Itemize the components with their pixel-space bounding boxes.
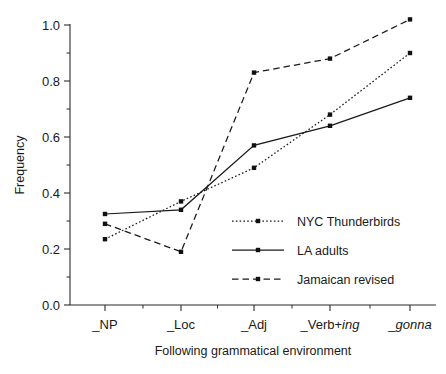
y-tick-label: 0.8 (42, 74, 60, 89)
x-tick-label-3: _Verb+ing (300, 317, 361, 332)
y-tick-group (64, 25, 70, 305)
data-point-marker (103, 222, 107, 226)
chart-figure: 0.00.20.40.60.81.0 _NP_Loc_Adj_Verb+ing_… (0, 0, 446, 374)
data-point-marker (252, 70, 256, 74)
x-tick-label-group: _NP_Loc_Adj_Verb+ing_gonna (91, 317, 431, 332)
legend-label-2: Jamaican revised (297, 273, 394, 287)
x-tick-group (105, 305, 410, 311)
legend-marker-1 (256, 248, 260, 252)
data-point-marker (328, 56, 332, 60)
data-point-marker (408, 17, 412, 21)
data-point-marker (179, 199, 183, 203)
data-point-marker (408, 51, 412, 55)
legend-marker-0 (256, 219, 260, 223)
chart-legend: NYC ThunderbirdsLA adultsJamaican revise… (232, 215, 400, 287)
data-point-marker (328, 112, 332, 116)
data-point-marker (103, 237, 107, 241)
data-point-marker (179, 208, 183, 212)
y-tick-label: 0.6 (42, 130, 60, 145)
data-point-marker (252, 166, 256, 170)
y-tick-label: 0.4 (42, 186, 60, 201)
y-tick-label: 0.0 (42, 298, 60, 313)
x-axis-title: Following grammatical environment (155, 344, 352, 358)
x-tick-label-2: _Adj (240, 317, 267, 332)
legend-marker-2 (256, 277, 260, 281)
x-tick-label-4: _gonna (387, 317, 431, 332)
line-chart-canvas: 0.00.20.40.60.81.0 _NP_Loc_Adj_Verb+ing_… (0, 0, 446, 374)
data-point-marker (103, 212, 107, 216)
y-axis-title: Frequency (13, 135, 27, 195)
data-point-marker (408, 96, 412, 100)
legend-label-1: LA adults (297, 244, 348, 258)
data-point-marker (179, 250, 183, 254)
x-tick-label-1: _Loc (166, 317, 196, 332)
y-tick-label: 1.0 (42, 18, 60, 33)
data-point-marker (252, 143, 256, 147)
x-tick-label-0: _NP (91, 317, 117, 332)
y-tick-label: 0.2 (42, 242, 60, 257)
legend-label-0: NYC Thunderbirds (297, 215, 400, 229)
y-tick-label-group: 0.00.20.40.60.81.0 (42, 18, 60, 313)
data-point-marker (328, 124, 332, 128)
series-line-1 (105, 98, 410, 214)
